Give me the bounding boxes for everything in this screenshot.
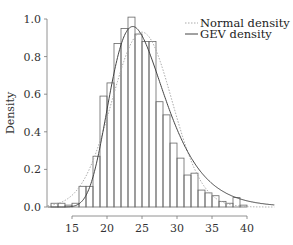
x-axis: 152025303540 <box>65 216 254 235</box>
histogram-bar <box>135 34 142 207</box>
gev-density-curve <box>48 27 275 208</box>
histogram-bar <box>128 17 135 207</box>
histogram-bar <box>177 158 184 207</box>
histogram-bar <box>170 143 177 207</box>
y-tick-label: 0.2 <box>24 163 42 176</box>
histogram-bar <box>156 102 163 207</box>
histogram-bar <box>149 42 156 207</box>
x-tick-label: 20 <box>100 222 114 235</box>
histogram-bar <box>58 203 65 207</box>
histogram-bar <box>86 186 93 207</box>
y-tick-label: 0.0 <box>24 201 42 214</box>
x-tick-label: 15 <box>65 222 79 235</box>
legend-gev-label: GEV density <box>200 27 272 41</box>
histogram-bar <box>219 201 226 207</box>
histogram-bar <box>163 115 170 207</box>
y-tick-label: 1.0 <box>24 13 42 26</box>
histogram-chart: 0.00.20.40.60.81.0 152025303540 Density … <box>0 0 293 245</box>
histogram-bar <box>198 190 205 207</box>
x-tick-label: 40 <box>240 222 254 235</box>
y-tick-label: 0.6 <box>24 88 42 101</box>
histogram-bar <box>121 28 128 207</box>
x-tick-label: 25 <box>135 222 149 235</box>
x-tick-label: 35 <box>205 222 219 235</box>
y-axis-title: Density <box>4 91 17 134</box>
y-tick-label: 0.4 <box>24 126 42 139</box>
histogram-bar <box>184 175 191 207</box>
normal-density-curve <box>48 32 275 207</box>
histogram-bar <box>142 42 149 207</box>
histogram-bar <box>191 173 198 207</box>
histogram-bars <box>51 17 247 207</box>
y-tick-label: 0.8 <box>24 51 42 64</box>
legend: Normal density GEV density <box>185 16 290 41</box>
x-tick-label: 30 <box>170 222 184 235</box>
histogram-bar <box>212 196 219 207</box>
y-axis: 0.00.20.40.60.81.0 <box>24 13 48 214</box>
